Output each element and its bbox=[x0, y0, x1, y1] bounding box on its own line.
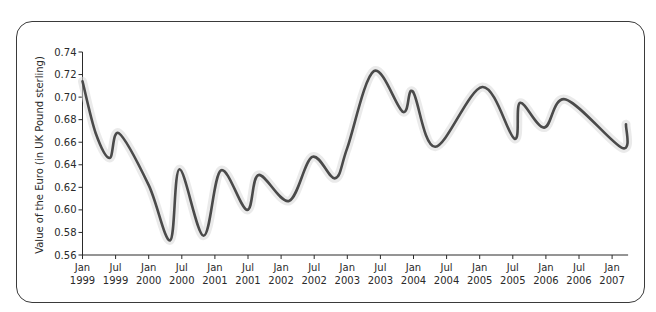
x-tick-year: 2000 bbox=[169, 275, 194, 286]
x-tick-month: Jul bbox=[307, 262, 320, 273]
x-tick-month: Jul bbox=[506, 262, 519, 273]
x-tick-year: 2001 bbox=[235, 275, 260, 286]
x-tick-year: 2003 bbox=[335, 275, 360, 286]
y-tick-label: 0.60 bbox=[54, 204, 76, 215]
x-tick-year: 2003 bbox=[368, 275, 393, 286]
x-tick-month: Jan bbox=[471, 262, 487, 273]
x-tick-year: 2006 bbox=[533, 275, 558, 286]
x-tick-month: Jul bbox=[109, 262, 122, 273]
x-tick-year: 2001 bbox=[202, 275, 227, 286]
series-shadow bbox=[83, 71, 628, 241]
y-tick-label: 0.66 bbox=[54, 137, 76, 148]
y-axis-label: Value of the Euro (in UK Pound sterling) bbox=[34, 56, 45, 254]
x-tick-year: 2005 bbox=[500, 275, 525, 286]
y-tick-label: 0.62 bbox=[54, 182, 76, 193]
x-tick-year: 2005 bbox=[467, 275, 492, 286]
y-tick-label: 0.74 bbox=[54, 47, 76, 58]
x-tick-year: 2002 bbox=[268, 275, 293, 286]
series-line bbox=[83, 71, 628, 241]
x-tick-year: 1999 bbox=[70, 275, 95, 286]
x-tick-month: Jul bbox=[572, 262, 585, 273]
y-tick-label: 0.68 bbox=[54, 114, 76, 125]
line-chart: 0.560.580.600.620.640.660.680.700.720.74… bbox=[0, 0, 656, 312]
x-tick-month: Jul bbox=[440, 262, 453, 273]
y-axis: 0.560.580.600.620.640.660.680.700.720.74 bbox=[54, 47, 82, 261]
x-tick-month: Jan bbox=[272, 262, 288, 273]
x-tick-month: Jul bbox=[175, 262, 188, 273]
x-tick-month: Jul bbox=[373, 262, 386, 273]
x-tick-month: Jan bbox=[74, 262, 90, 273]
y-tick-label: 0.58 bbox=[54, 227, 76, 238]
x-tick-month: Jan bbox=[405, 262, 421, 273]
x-tick-month: Jan bbox=[206, 262, 222, 273]
x-tick-year: 2006 bbox=[566, 275, 591, 286]
x-tick-year: 2004 bbox=[401, 275, 426, 286]
y-tick-label: 0.70 bbox=[54, 92, 76, 103]
x-axis: Jan1999Jul1999Jan2000Jul2000Jan2001Jul20… bbox=[70, 255, 628, 286]
x-tick-month: Jan bbox=[339, 262, 355, 273]
x-tick-year: 2002 bbox=[301, 275, 326, 286]
x-tick-year: 2007 bbox=[599, 275, 624, 286]
y-tick-label: 0.64 bbox=[54, 159, 76, 170]
y-tick-label: 0.72 bbox=[54, 69, 76, 80]
x-tick-month: Jul bbox=[241, 262, 254, 273]
x-tick-year: 1999 bbox=[103, 275, 128, 286]
data-series bbox=[83, 71, 628, 241]
x-tick-month: Jan bbox=[603, 262, 619, 273]
x-tick-year: 2000 bbox=[136, 275, 161, 286]
x-tick-year: 2004 bbox=[434, 275, 459, 286]
y-tick-label: 0.56 bbox=[54, 250, 76, 261]
x-tick-month: Jan bbox=[140, 262, 156, 273]
x-tick-month: Jan bbox=[537, 262, 553, 273]
